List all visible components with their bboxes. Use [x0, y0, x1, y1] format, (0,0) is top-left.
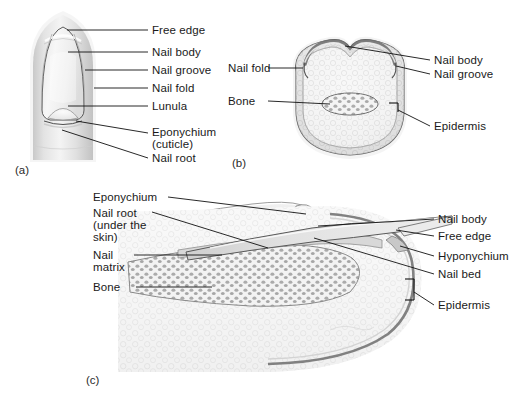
label-c-nail-root-line3: skin) — [93, 231, 118, 244]
label-a-free-edge: Free edge — [152, 24, 205, 37]
label-b-epidermis: Epidermis — [434, 120, 486, 133]
panel-letter-b: (b) — [232, 157, 246, 169]
label-c-epidermis: Epidermis — [438, 299, 490, 312]
label-b-nail-groove: Nail groove — [434, 68, 493, 81]
panel-letter-a: (a) — [15, 164, 29, 176]
label-a-eponychium: Eponychium — [152, 126, 216, 139]
panel-b-artwork — [268, 37, 430, 160]
label-c-eponychium: Eponychium — [93, 191, 157, 204]
label-c-bone: Bone — [93, 281, 120, 294]
nail-anatomy-figure: Free edge Nail body Nail groove Nail fol… — [0, 0, 520, 410]
label-b-nail-body: Nail body — [434, 54, 483, 67]
label-c-hyponychium: Hyponychium — [438, 250, 509, 263]
label-b-nail-fold: Nail fold — [228, 62, 270, 75]
panel-c-artwork — [110, 197, 452, 380]
label-a-eponychium-cuticle: (cuticle) — [152, 138, 193, 151]
label-a-nail-body: Nail body — [152, 46, 201, 59]
label-a-nail-fold: Nail fold — [152, 82, 194, 95]
label-c-nail-root-line2: (under the — [93, 219, 146, 232]
panel-letter-c: (c) — [86, 374, 99, 386]
panel-a-artwork — [30, 11, 148, 162]
label-c-nail-matrix: Nail — [93, 249, 113, 262]
label-a-nail-groove: Nail groove — [152, 64, 211, 77]
label-a-lunula: Lunula — [152, 100, 187, 113]
label-c-nail-root: Nail root — [93, 207, 137, 220]
label-c-nail-bed: Nail bed — [438, 268, 481, 281]
label-a-nail-root: Nail root — [152, 152, 196, 165]
label-c-free-edge: Free edge — [438, 230, 491, 243]
label-c-nail-matrix-line2: matrix — [93, 261, 125, 274]
label-c-nail-body: Nail body — [438, 213, 487, 226]
label-b-bone: Bone — [228, 95, 255, 108]
